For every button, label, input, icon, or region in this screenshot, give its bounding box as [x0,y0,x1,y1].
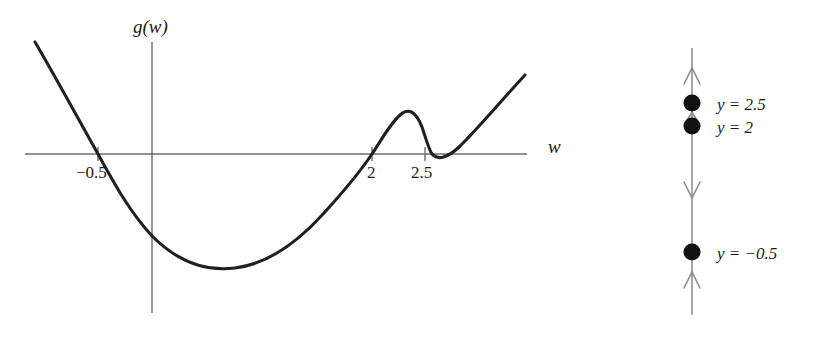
tick-label-minus-0-5: −0.5 [76,164,107,181]
vertical-axis-label: g(w) [133,16,168,38]
phase-label-2: y = 2 [717,119,753,136]
equilibrium-dot-2 [684,118,701,135]
math-figure: g(w) w [0,0,818,337]
equilibrium-dot-minus-0-5 [684,244,701,261]
equilibrium-dot-2-5 [684,95,701,112]
curve-g-of-w [35,42,525,269]
phase-label-minus-0-5: y = −0.5 [717,245,777,262]
phase-label-2-5: y = 2.5 [717,96,766,113]
tick-label-2-5: 2.5 [411,164,432,181]
horizontal-axis-label: w [548,136,561,157]
phase-line-panel [684,48,701,315]
tick-label-2: 2 [367,164,376,181]
